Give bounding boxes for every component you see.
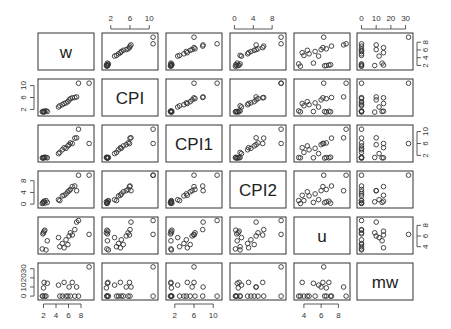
data-point <box>374 95 379 100</box>
axis-tick-label: 0 <box>232 14 237 23</box>
data-point <box>381 199 386 204</box>
axis-tick-label: 6 <box>319 311 324 320</box>
data-point <box>129 285 134 290</box>
data-point <box>261 136 266 141</box>
data-point <box>41 286 46 291</box>
data-point <box>311 156 316 161</box>
data-point <box>87 141 92 146</box>
axis-tick-label: 6 <box>128 14 133 23</box>
data-point <box>190 285 195 290</box>
data-point <box>215 81 220 86</box>
data-point <box>58 198 63 203</box>
data-point <box>302 150 307 155</box>
data-point <box>316 105 321 110</box>
data-point <box>215 173 220 178</box>
data-point <box>76 127 81 132</box>
axis-tick-label: 8 <box>19 178 28 183</box>
data-point <box>254 285 259 290</box>
data-point <box>87 81 92 86</box>
data-point <box>175 235 180 240</box>
data-point <box>359 141 364 146</box>
data-point <box>327 280 332 285</box>
panel-CPI1-vs-CPI <box>102 125 158 162</box>
data-point <box>279 265 284 270</box>
data-point <box>151 265 156 270</box>
data-point <box>124 285 129 290</box>
data-point <box>381 246 386 251</box>
data-point <box>406 35 411 40</box>
data-point <box>313 49 318 54</box>
axis-tick-label: 20 <box>386 14 395 23</box>
data-point <box>344 294 349 299</box>
data-point <box>42 280 47 285</box>
data-point <box>192 35 197 40</box>
panel-mw-vs-CPI <box>102 263 158 300</box>
axis-tick-label: 4 <box>54 311 59 320</box>
data-point <box>106 248 111 253</box>
data-point <box>238 150 243 155</box>
panel-CPI2-vs-mw <box>357 171 413 208</box>
axis-tick-label: 4 <box>421 244 430 249</box>
panel-w-vs-CPI <box>102 33 158 70</box>
axis-tick-label: 8 <box>270 14 275 23</box>
data-point <box>321 184 326 189</box>
data-point <box>279 141 284 146</box>
data-point <box>377 105 382 110</box>
panel-CPI2-vs-u <box>294 171 350 208</box>
axis-tick-label: 8 <box>421 223 430 228</box>
data-point <box>246 280 251 285</box>
data-point <box>341 95 346 100</box>
data-point <box>76 173 81 178</box>
data-point <box>279 81 284 86</box>
axis-tick-label: 4 <box>421 55 430 60</box>
data-point <box>359 127 364 132</box>
panel-u-vs-CPI <box>102 217 158 254</box>
data-point <box>74 285 79 290</box>
axis-tick-label: 10 <box>19 282 28 291</box>
data-point <box>313 294 318 299</box>
panel-mw-vs-w <box>38 263 94 300</box>
data-point <box>261 294 266 299</box>
data-point <box>45 281 50 286</box>
diagonal-label: u <box>317 227 326 246</box>
data-point <box>359 81 364 86</box>
axis-tick-label: 6 <box>192 311 197 320</box>
panel-CPI2-vs-CPI2: CPI2 <box>230 171 286 208</box>
data-point <box>261 44 266 49</box>
data-point <box>246 246 251 251</box>
panel-border <box>166 79 222 116</box>
panel-grid: wCPICPI1CPI2umw <box>38 33 413 300</box>
axis-tick-label: 8 <box>421 39 430 44</box>
data-point <box>201 285 206 290</box>
panel-mw-vs-u <box>294 263 350 300</box>
data-point <box>193 187 198 192</box>
data-point <box>341 285 346 290</box>
data-point <box>324 286 329 291</box>
panel-w-vs-CPI1 <box>166 33 222 70</box>
panel-CPI-vs-u <box>294 79 350 116</box>
data-point <box>279 42 284 47</box>
panel-CPI1-vs-CPI2 <box>230 125 286 162</box>
diagonal-label: CPI1 <box>175 135 213 154</box>
data-point <box>119 238 124 243</box>
diagonal-label: CPI <box>116 89 144 108</box>
data-point <box>177 244 182 249</box>
axis-tick-label: 30 <box>19 264 28 273</box>
panel-CPI-vs-mw <box>357 79 413 116</box>
panel-CPI-vs-CPI: CPI <box>102 79 158 116</box>
panel-w-vs-CPI2 <box>230 33 286 70</box>
axis-tick-label: 4 <box>19 190 28 195</box>
data-point <box>238 244 243 249</box>
data-point <box>329 184 334 189</box>
data-point <box>151 294 156 299</box>
data-point <box>311 109 316 114</box>
data-point <box>302 198 307 203</box>
panel-CPI-vs-w <box>38 79 94 116</box>
data-point <box>62 280 67 285</box>
panel-mw-vs-mw: mw <box>357 263 413 300</box>
data-point <box>200 294 205 299</box>
data-point <box>279 218 284 223</box>
data-point <box>372 63 377 68</box>
data-point <box>279 232 284 237</box>
axis-tick-label: 2 <box>421 63 430 68</box>
